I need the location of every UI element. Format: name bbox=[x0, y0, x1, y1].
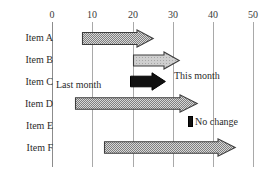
category-label-item-e: Item E bbox=[26, 121, 53, 131]
category-label-item-d: Item D bbox=[25, 99, 53, 109]
last-month-annotation: Last month bbox=[56, 80, 101, 90]
horizontal-arrow-chart: 0 10 20 30 40 50 Item A Item B Item C It… bbox=[0, 0, 267, 172]
bar-arrow-item-c bbox=[130, 72, 166, 91]
no-change-annotation: No change bbox=[195, 117, 238, 127]
xtick-label-0: 0 bbox=[50, 10, 55, 20]
category-label-item-f: Item F bbox=[27, 143, 53, 153]
bar-arrow-item-d bbox=[75, 94, 198, 113]
gridline-50 bbox=[253, 22, 254, 167]
category-label-item-b: Item B bbox=[26, 55, 54, 65]
xtick-label-30: 30 bbox=[168, 10, 178, 20]
bar-arrow-item-f bbox=[104, 138, 236, 157]
this-month-annotation: This month bbox=[174, 71, 220, 81]
xtick-label-50: 50 bbox=[248, 10, 258, 20]
xtick-label-10: 10 bbox=[87, 10, 97, 20]
xtick-label-40: 40 bbox=[208, 10, 218, 20]
category-label-item-a: Item A bbox=[26, 33, 54, 43]
bar-arrow-item-a bbox=[82, 29, 154, 48]
bar-arrow-item-b bbox=[133, 51, 180, 70]
no-change-marker-item-e bbox=[188, 116, 193, 127]
xtick-label-20: 20 bbox=[128, 10, 138, 20]
category-label-item-c: Item C bbox=[26, 77, 54, 87]
